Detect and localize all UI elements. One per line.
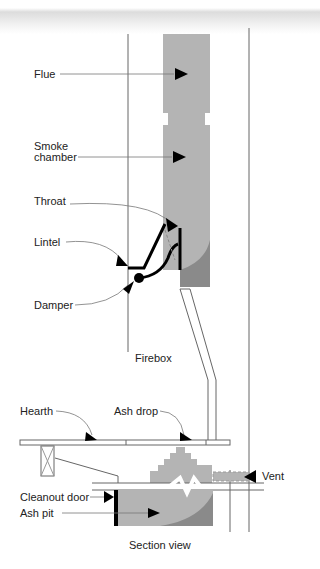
label-hearth: Hearth [20,405,53,417]
label-firebox: Firebox [135,352,172,364]
firebox-back-wall-inner [180,289,208,442]
damper-leader [75,285,128,305]
lintel-leader [66,241,122,260]
fireplace-section-diagram: Flue Smoke chamber Throat Lintel Damper … [0,0,320,569]
ash-drop-leader [160,411,184,435]
label-cleanout-door: Cleanout door [20,491,89,503]
ash-drop-arrow-icon [180,432,192,441]
support-line [55,458,118,483]
label-ash-pit: Ash pit [20,507,54,519]
flue-column [163,34,210,287]
label-ash-drop: Ash drop [114,405,158,417]
label-lintel: Lintel [34,236,60,248]
damper-pivot [134,273,144,283]
cleanout-arrow-icon [104,491,114,503]
label-vent: Vent [262,470,284,482]
hearth-leader [56,411,92,435]
label-damper: Damper [34,299,73,311]
caption-section-view: Section view [129,539,191,551]
throat-leader [70,203,172,224]
hearth-arrow-icon [85,432,97,441]
cleanout-door [114,490,118,526]
label-flue: Flue [34,68,55,80]
label-throat: Throat [34,195,66,207]
vent-duct [213,472,249,481]
lintel-arrow-icon [116,255,128,266]
lintel [128,224,165,268]
firebox-back-wall [180,289,216,442]
hearth-slab [20,440,230,445]
label-smoke-chamber-line2: chamber [34,151,77,163]
